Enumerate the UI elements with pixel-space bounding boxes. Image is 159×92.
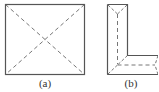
figure-b-dash-right-end-bottom [155, 65, 158, 75]
figure-a [6, 5, 85, 75]
figure-b-dash-inner-corner [118, 56, 128, 66]
figure-b-dash-top-left [108, 5, 118, 14]
figure-b-dash-top-right [118, 5, 128, 14]
figure-b-dash-right-end-top [155, 56, 158, 66]
figure-b-dash-bottom-left [108, 65, 118, 74]
figure-a-caption: (a) [30, 77, 60, 89]
figure-b-l-outline [108, 5, 159, 75]
figure-b-caption: (b) [116, 77, 146, 89]
figure-b [108, 5, 159, 75]
